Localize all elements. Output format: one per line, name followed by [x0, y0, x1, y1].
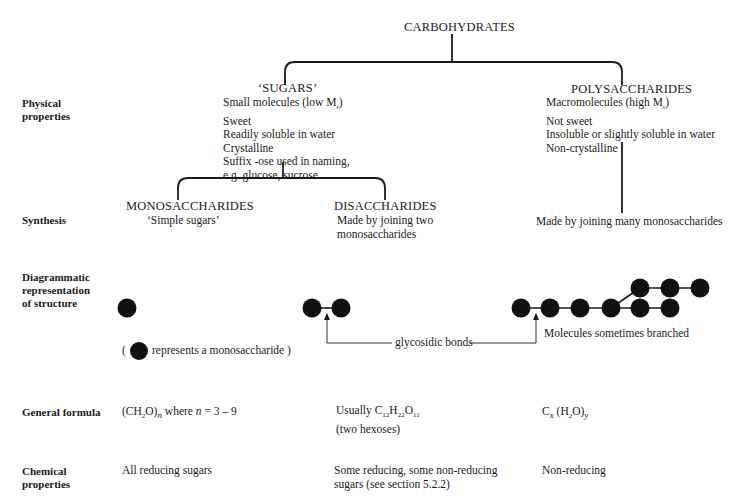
row-label-formula: General formula [22, 406, 101, 419]
polysaccharides-properties: Macromolecules (high Mr) Not sweet Insol… [546, 96, 715, 155]
branched-note: Molecules sometimes branched [544, 327, 689, 341]
monosaccharide-molecule [118, 299, 137, 318]
arrowhead-disaccharide [324, 313, 330, 320]
sugars-properties: Small molecules (low Mr) Sweet Readily s… [223, 96, 350, 182]
monosaccharide-chemical: All reducing sugars [122, 464, 212, 478]
legend-text: represents a monosaccharide ) [152, 344, 291, 358]
glycosidic-bonds-label: glycosidic bonds [395, 336, 473, 350]
monosaccharides-synthesis: ‘Simple sugars’ [147, 214, 220, 228]
root-title: CARBOHYDRATES [404, 20, 515, 35]
disaccharides-title: DISACCHARIDES [334, 199, 437, 214]
disaccharide-chemical: Some reducing, some non-reducing sugars … [334, 464, 498, 491]
disaccharide-molecule-1 [303, 299, 322, 318]
legend-open-paren: ( [122, 344, 126, 358]
sugars-title: ‘SUGARS’ [258, 81, 317, 96]
arrowhead-polysaccharide [533, 313, 539, 320]
row-label-synthesis: Synthesis [22, 214, 66, 227]
disaccharide-molecule-2 [332, 299, 351, 318]
polysaccharides-title: POLYSACCHARIDES [571, 82, 692, 97]
polysaccharides-synthesis: Made by joining many monosaccharides [536, 215, 723, 229]
row-label-diagram: Diagrammatic representation of structure [22, 271, 90, 310]
monosaccharides-title: MONOSACCHARIDES [126, 199, 254, 214]
polysaccharide-formula: Cx (H2O)y [542, 405, 588, 424]
monosaccharide-formula: (CH2O)n where n = 3 – 9 [122, 405, 237, 424]
disaccharide-formula: Usually C12H22O11 (two hexoses) [336, 404, 420, 436]
row-label-chemical: Chemical properties [22, 465, 70, 491]
disaccharides-synthesis: Made by joining two monosaccharides [337, 214, 433, 241]
row-label-physical: Physical properties [22, 97, 70, 123]
polysaccharide-chemical: Non-reducing [542, 464, 606, 478]
legend-molecule [130, 342, 148, 360]
